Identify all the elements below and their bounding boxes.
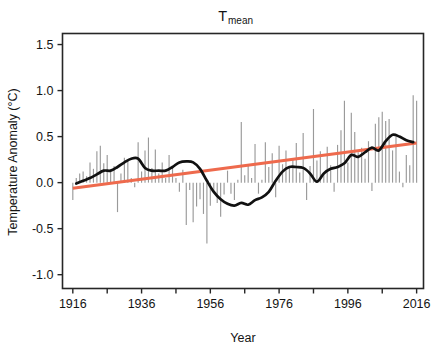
chart-title-subscript: mean bbox=[228, 15, 253, 26]
x-tick-label: 1936 bbox=[128, 297, 156, 311]
plot-frame bbox=[63, 34, 424, 289]
x-tick-label: 1976 bbox=[265, 297, 293, 311]
chart-figure: 1.51.00.50.0-0.5-1.0 1916193619561976199… bbox=[0, 0, 436, 351]
y-tick-label: 1.0 bbox=[36, 84, 53, 98]
x-tick-label: 2016 bbox=[403, 297, 431, 311]
temperature-anomaly-chart: 1.51.00.50.0-0.5-1.0 1916193619561976199… bbox=[0, 0, 436, 351]
smoothed-trend-line bbox=[76, 135, 413, 206]
y-tick-label: 0.5 bbox=[36, 130, 53, 144]
y-tick-label: -1.0 bbox=[32, 268, 54, 282]
y-tick-label: 1.5 bbox=[36, 38, 53, 52]
x-tick-label: 1916 bbox=[59, 297, 87, 311]
x-axis-tick-labels: 191619361956197619962016 bbox=[59, 297, 431, 311]
annual-anomaly-bars bbox=[73, 95, 417, 243]
y-tick-label: 0.0 bbox=[36, 176, 53, 190]
x-tick-label: 1996 bbox=[334, 297, 362, 311]
y-tick-label: -0.5 bbox=[32, 222, 54, 236]
x-axis-title: Year bbox=[230, 331, 255, 345]
x-tick-label: 1956 bbox=[196, 297, 224, 311]
y-axis-tick-labels: 1.51.00.50.0-0.5-1.0 bbox=[32, 38, 54, 282]
y-axis-title: Temperature Anomaly (°C) bbox=[6, 88, 20, 235]
chart-title: T bbox=[218, 8, 227, 24]
